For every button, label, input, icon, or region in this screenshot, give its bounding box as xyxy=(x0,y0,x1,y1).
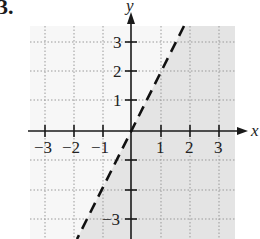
y-axis-label: y xyxy=(124,0,134,15)
y-tick-label: 1 xyxy=(113,91,122,110)
x-tick-label: 3 xyxy=(214,138,223,157)
x-axis-arrow-icon xyxy=(237,127,248,135)
x-tick-label: −1 xyxy=(91,138,109,157)
x-tick-label: −3 xyxy=(34,138,52,157)
x-tick-label: 2 xyxy=(185,138,194,157)
x-tick-label: −2 xyxy=(62,138,80,157)
x-axis-label: x xyxy=(250,121,259,140)
y-tick-label: 2 xyxy=(113,62,122,81)
x-tick-label: 1 xyxy=(156,138,165,157)
y-tick-label: −3 xyxy=(102,210,120,229)
y-tick-label: 3 xyxy=(113,33,122,52)
coordinate-graph: x y −3 −2 −1 1 2 3 3 2 1 −3 xyxy=(0,0,260,239)
